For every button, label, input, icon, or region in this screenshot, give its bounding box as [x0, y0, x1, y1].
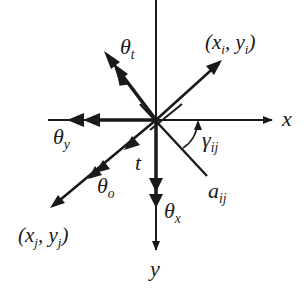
a-ij-line: [140, 104, 207, 176]
label-theta-y: θy: [53, 126, 70, 151]
label-theta-o: θo: [97, 175, 115, 200]
label-gamma: γij: [202, 129, 218, 154]
origin-point: [153, 117, 159, 123]
theta-y-vector: [67, 113, 156, 127]
label-point-i: (xi, yi): [205, 32, 255, 56]
label-y-axis: y: [150, 258, 160, 280]
label-a-ij: aij: [208, 180, 227, 205]
gamma-arc: [183, 120, 202, 148]
ij-line: [50, 60, 222, 208]
label-x-axis: x: [282, 108, 292, 130]
label-theta-x: θx: [164, 200, 181, 225]
double-arrowhead-icon: [83, 113, 100, 127]
vector-diagram: θt (xi, yi) x θy t γij θo aij θx (xj, yj…: [0, 0, 308, 290]
label-theta-t: θt: [120, 36, 135, 61]
theta-x-vector: [149, 120, 163, 208]
label-t: t: [135, 152, 141, 174]
label-point-j: (xj, yj): [18, 225, 68, 249]
